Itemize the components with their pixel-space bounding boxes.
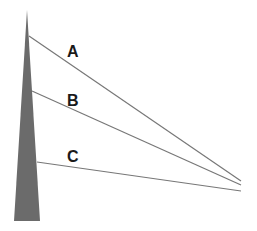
wire-label-b: B xyxy=(67,92,79,109)
guy-wire-b xyxy=(32,91,241,185)
tower-diagram: A B C xyxy=(0,0,257,231)
wire-labels: A B C xyxy=(67,43,79,165)
wire-label-c: C xyxy=(67,148,79,165)
guy-wire-c xyxy=(37,162,241,191)
guy-wires xyxy=(29,36,241,191)
guy-wire-a xyxy=(29,36,241,181)
wire-label-a: A xyxy=(67,43,79,60)
diagram-canvas: A B C xyxy=(0,0,257,231)
tower xyxy=(14,10,40,221)
